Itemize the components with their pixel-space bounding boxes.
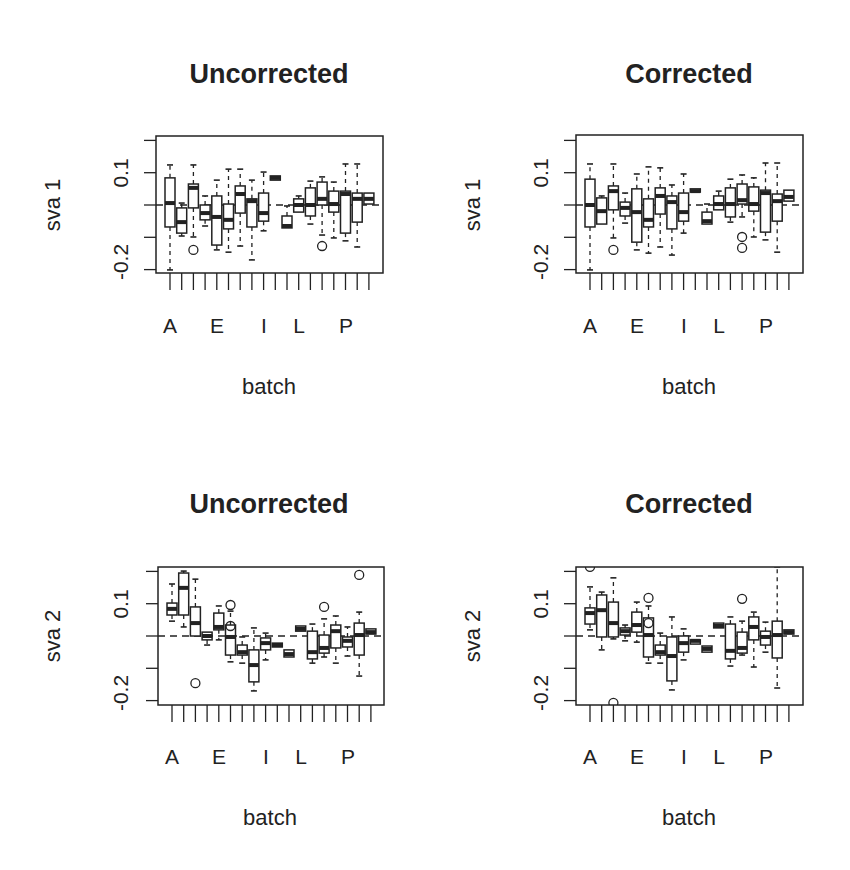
- box-iqr: [679, 193, 689, 221]
- box-O: [331, 616, 341, 663]
- median-bar: [667, 654, 677, 658]
- panel-title: Uncorrected: [189, 489, 348, 519]
- x-tick-label: E: [630, 745, 644, 768]
- median-bar: [761, 191, 771, 195]
- median-bar: [366, 630, 376, 634]
- box-B: [597, 592, 607, 650]
- x-tick-label: A: [583, 745, 597, 768]
- box-iqr: [644, 199, 654, 227]
- outlier-point: [320, 602, 329, 611]
- panel-top-left: Uncorrected sva 1 0.1 -0.2 A E I L P bat…: [40, 59, 383, 399]
- median-bar: [343, 639, 353, 643]
- box-Q: [772, 567, 782, 688]
- median-bar: [772, 633, 782, 637]
- box-F: [644, 167, 654, 253]
- box-N: [317, 177, 327, 251]
- median-bar: [331, 629, 341, 633]
- x-tick-label: L: [713, 314, 725, 337]
- box-C: [608, 578, 618, 708]
- median-bar: [784, 630, 794, 634]
- median-bar: [364, 197, 374, 201]
- box-E: [212, 180, 222, 250]
- median-bar: [352, 197, 362, 201]
- x-axis-label: batch: [662, 805, 716, 830]
- box-G: [237, 637, 247, 663]
- y-tick-label-top: 0.1: [529, 158, 552, 187]
- box-iqr: [305, 188, 315, 216]
- box-D: [620, 625, 630, 641]
- box-P: [343, 627, 353, 656]
- box-G: [655, 633, 665, 663]
- y-tick-label-bottom: -0.2: [109, 244, 132, 280]
- median-bar: [226, 635, 236, 639]
- box-iqr: [737, 632, 747, 653]
- median-bar: [341, 192, 351, 196]
- boxplot-area: [146, 567, 384, 722]
- boxes-group: [576, 163, 803, 270]
- x-tick-label: L: [293, 314, 305, 337]
- median-bar: [190, 621, 200, 625]
- x-tick-label: E: [210, 314, 224, 337]
- median-bar: [235, 192, 245, 196]
- median-bar: [317, 197, 327, 201]
- x-tick-label: I: [681, 314, 687, 337]
- box-J: [690, 189, 700, 193]
- box-iqr: [224, 204, 234, 229]
- box-H: [667, 617, 677, 690]
- box-I: [259, 172, 269, 231]
- box-H: [247, 180, 257, 260]
- box-H: [667, 185, 677, 255]
- x-axis-label: batch: [662, 374, 716, 399]
- box-J: [272, 643, 282, 647]
- box-iqr: [317, 182, 327, 205]
- box-iqr: [329, 191, 339, 212]
- box-R: [784, 630, 794, 634]
- median-bar: [644, 633, 654, 637]
- box-Q: [354, 570, 364, 676]
- median-bar: [354, 633, 364, 637]
- box-P: [761, 622, 771, 652]
- x-tick-label: A: [163, 314, 177, 337]
- box-O: [329, 182, 339, 238]
- median-bar: [249, 663, 259, 667]
- box-L: [296, 626, 306, 631]
- panel-title: Corrected: [625, 59, 753, 89]
- x-tick-label: A: [583, 314, 597, 337]
- median-bar: [737, 646, 747, 650]
- median-bar: [725, 202, 735, 206]
- box-P: [761, 163, 771, 240]
- box-O: [749, 612, 759, 667]
- panel-bottom-left: Uncorrected sva 2 0.1 -0.2 A E I L P bat…: [40, 489, 384, 830]
- x-tick-label: I: [681, 745, 687, 768]
- x-tick-label: I: [261, 314, 267, 337]
- median-bar: [620, 206, 630, 210]
- box-M: [725, 179, 735, 222]
- median-bar: [247, 199, 257, 203]
- outlier-point: [738, 594, 747, 603]
- median-bar: [714, 202, 724, 206]
- median-bar: [214, 625, 224, 629]
- y-tick-label-bottom: -0.2: [529, 675, 552, 711]
- y-tick-label-top: 0.1: [109, 158, 132, 187]
- median-bar: [261, 641, 271, 645]
- box-J: [270, 176, 280, 180]
- panel-title: Corrected: [625, 489, 753, 519]
- box-D: [202, 632, 212, 645]
- median-bar: [272, 643, 282, 647]
- box-J: [690, 639, 700, 644]
- box-L: [714, 191, 724, 210]
- median-bar: [329, 202, 339, 206]
- box-K: [282, 206, 292, 228]
- box-L: [294, 196, 304, 212]
- box-iqr: [597, 595, 607, 637]
- median-bar: [714, 624, 724, 628]
- box-D: [620, 193, 630, 223]
- box-K: [284, 650, 294, 657]
- figure-canvas: Uncorrected sva 1 0.1 -0.2 A E I L P bat…: [0, 0, 850, 870]
- median-bar: [179, 586, 189, 590]
- median-bar: [679, 210, 689, 214]
- box-I: [261, 633, 271, 660]
- median-bar: [224, 218, 234, 222]
- box-A: [165, 165, 175, 270]
- median-bar: [749, 625, 759, 629]
